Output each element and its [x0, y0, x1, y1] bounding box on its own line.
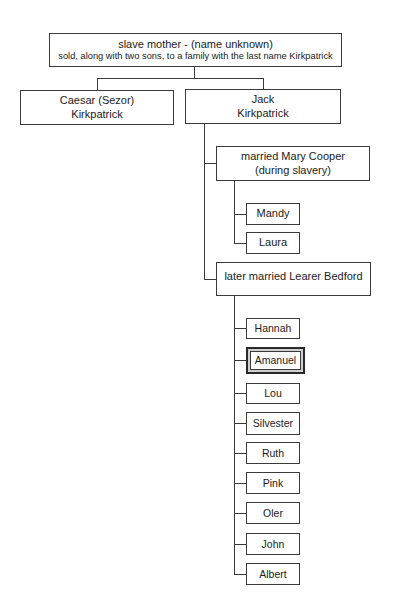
child-oler: Oler	[246, 502, 300, 524]
marriage-mary-note: (during slavery)	[255, 164, 331, 177]
child-name: Oler	[263, 507, 283, 520]
child-name: Mandy	[256, 207, 289, 220]
child-amanuel-highlighted: Amanuel	[246, 347, 305, 374]
child-pink: Pink	[246, 472, 300, 494]
marriage-learer-title: later married Learer Bedford	[224, 270, 362, 283]
connector-oler	[234, 513, 246, 514]
child-name: Amanuel	[255, 354, 296, 367]
node-jack-surname: Kirkpatrick	[237, 107, 288, 120]
connector-laura	[234, 243, 246, 244]
child-ruth: Ruth	[246, 442, 300, 464]
connector-sons-horizontal	[97, 78, 263, 79]
connector-jack-down	[204, 124, 205, 279]
connector-to-learer	[204, 279, 216, 280]
child-name: Lou	[264, 387, 282, 400]
node-caesar: Caesar (Sezor) Kirkpatrick	[20, 90, 174, 125]
child-name: Pink	[263, 477, 283, 490]
connector-pink	[234, 483, 246, 484]
connector-jack	[263, 78, 264, 89]
child-john: John	[246, 533, 300, 555]
connector-lou	[234, 393, 246, 394]
connector-albert	[234, 574, 246, 575]
connector-caesar	[97, 78, 98, 90]
root-node-title: slave mother - (name unknown)	[118, 38, 273, 51]
connector-mandy	[234, 214, 246, 215]
connector-mary-children	[234, 181, 235, 243]
connector-john	[234, 544, 246, 545]
child-albert: Albert	[246, 563, 300, 585]
connector-amanuel	[234, 360, 246, 361]
connector-hannah	[234, 328, 246, 329]
child-name: Hannah	[255, 322, 292, 335]
node-marriage-mary-cooper: married Mary Cooper (during slavery)	[216, 146, 370, 181]
connector-root-down	[194, 67, 195, 78]
connector-to-mary	[204, 163, 216, 164]
node-jack-name: Jack	[252, 93, 275, 106]
child-name: John	[262, 538, 285, 551]
root-node-slave-mother: slave mother - (name unknown) sold, alon…	[49, 33, 342, 67]
child-name: Ruth	[262, 447, 284, 460]
child-name: Silvester	[253, 417, 293, 430]
child-lou: Lou	[246, 383, 300, 404]
child-silvester: Silvester	[246, 412, 300, 435]
child-name: Laura	[259, 236, 287, 249]
connector-ruth	[234, 453, 246, 454]
child-hannah: Hannah	[246, 318, 300, 339]
connector-learer-children	[234, 296, 235, 574]
marriage-mary-title: married Mary Cooper	[241, 150, 345, 163]
node-marriage-learer-bedford: later married Learer Bedford	[216, 262, 371, 296]
child-name: Albert	[259, 568, 286, 581]
node-caesar-surname: Kirkpatrick	[71, 108, 122, 121]
child-laura: Laura	[246, 232, 300, 254]
child-mandy: Mandy	[246, 203, 300, 225]
root-node-note: sold, along with two sons, to a family w…	[58, 51, 332, 62]
node-jack: Jack Kirkpatrick	[185, 89, 341, 124]
node-caesar-name: Caesar (Sezor)	[60, 94, 135, 107]
connector-silvester	[234, 423, 246, 424]
